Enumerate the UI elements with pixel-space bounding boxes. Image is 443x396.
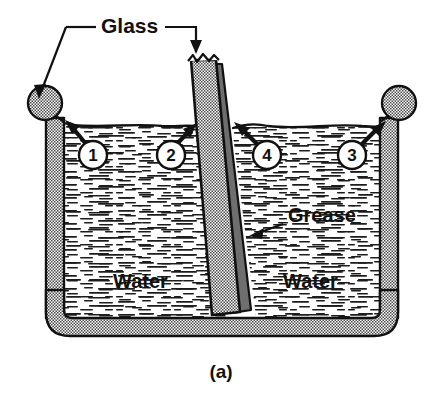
diagram-canvas: Glass Grease Water Water 1	[0, 0, 443, 396]
callout-2-number: 2	[166, 146, 175, 165]
figure-glass-plate-in-water: Glass Grease Water Water 1	[0, 0, 443, 396]
figure-caption: (a)	[209, 361, 232, 382]
callout-1-number: 1	[88, 146, 97, 165]
water-label-left: Water	[113, 270, 168, 292]
callout-4-number: 4	[262, 146, 272, 165]
grease-label: Grease	[288, 204, 356, 226]
water-label-right: Water	[283, 270, 338, 292]
rim-bead-right	[382, 86, 416, 120]
glass-arrowhead-right	[190, 40, 202, 54]
glass-leader-left-stem	[41, 27, 66, 92]
vessel-wall-right	[380, 118, 398, 318]
glass-label: Glass	[101, 14, 158, 37]
rim-bead-left	[28, 86, 62, 120]
glass-label-group: Glass	[34, 14, 202, 99]
callout-3-number: 3	[347, 146, 356, 165]
vessel-wall-left	[46, 118, 64, 318]
